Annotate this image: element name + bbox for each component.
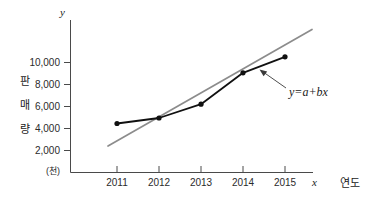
y-tick-label-10000: 10,000 <box>29 57 60 68</box>
x-tick-label-2011: 2011 <box>106 177 128 188</box>
x-tick-label-2015: 2015 <box>274 177 297 188</box>
chart-canvas: 2,000 4,000 6,000 8,000 10,000 (천) y 판 매… <box>0 0 375 201</box>
y-tick-label-2000: 2,000 <box>35 145 60 156</box>
x-tick-label-2013: 2013 <box>190 177 213 188</box>
regression-fit-line <box>108 30 312 147</box>
y-tick-label-4000: 4,000 <box>35 123 60 134</box>
x-tick-label-2014: 2014 <box>232 177 255 188</box>
regression-scatter-chart: 2,000 4,000 6,000 8,000 10,000 (천) y 판 매… <box>0 0 375 201</box>
y-axis-title-char-2: 매 <box>20 99 30 112</box>
data-point-2015 <box>282 54 287 59</box>
annotation-arrow-head-icon <box>260 70 268 77</box>
y-tick-label-8000: 8,000 <box>35 79 60 90</box>
data-point-2011 <box>114 121 119 126</box>
data-point-2013 <box>198 102 203 107</box>
y-axis-unit-note: (천) <box>46 166 60 176</box>
regression-equation-label: y=a+bx <box>288 85 329 99</box>
y-axis-title-char-1: 판 <box>20 75 30 88</box>
data-point-2014 <box>240 70 245 75</box>
x-axis-title: 연도 <box>340 177 360 190</box>
data-point-2012 <box>156 115 161 120</box>
y-axis-symbol: y <box>59 6 65 18</box>
y-axis-title-char-3: 량 <box>20 123 30 136</box>
annotation-arrow-line <box>263 72 287 89</box>
sales-series-line <box>117 57 285 124</box>
x-axis-symbol: x <box>311 176 317 188</box>
x-tick-label-2012: 2012 <box>148 177 171 188</box>
y-tick-label-6000: 6,000 <box>35 101 60 112</box>
